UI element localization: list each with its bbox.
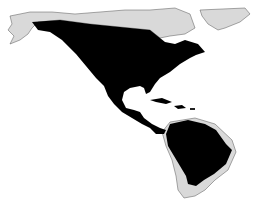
range-map bbox=[0, 0, 256, 204]
island-puerto-rico bbox=[190, 108, 195, 110]
map-canvas bbox=[0, 0, 256, 204]
